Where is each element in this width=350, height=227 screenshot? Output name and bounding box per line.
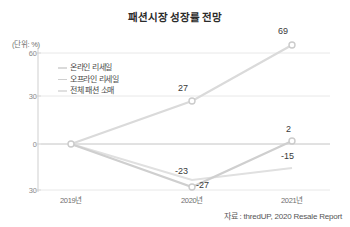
legend-label-overall-fashion-retail: 전체 패션 소매 — [70, 85, 114, 97]
data-label-offline-2020: -27 — [196, 180, 209, 190]
legend-swatch-icon-offline-resale — [58, 79, 67, 81]
data-label-online-2020: 27 — [178, 83, 188, 93]
marker-offline-2021 — [289, 138, 295, 144]
data-label-online-2021: 69 — [278, 26, 288, 36]
plot-area — [0, 0, 350, 227]
data-label-offline-2021: 2 — [286, 124, 291, 134]
data-label-overall-2021: -15 — [281, 151, 294, 161]
legend-item-overall-fashion-retail: 전체 패션 소매 — [58, 85, 119, 97]
legend-label-offline-resale: 오프라인 리세일 — [70, 74, 119, 86]
legend-swatch-icon-online-resale — [58, 67, 67, 69]
chart-container: 패션시장 성장률 전망 (단위: %) 60 30 0 30 2019년 202… — [0, 0, 350, 227]
data-label-overall-2020: -23 — [175, 166, 188, 176]
marker-online-2021 — [289, 42, 295, 48]
marker-online-2020 — [189, 98, 195, 104]
marker-offline-2020 — [189, 184, 195, 190]
legend-swatch-icon-overall-fashion-retail — [58, 90, 67, 92]
source-note: 자료 : thredUP, 2020 Resale Report — [224, 210, 342, 221]
chart-legend: 온라인 리세일 오프라인 리세일 전체 패션 소매 — [58, 62, 119, 97]
legend-label-online-resale: 온라인 리세일 — [70, 62, 112, 74]
series-line-offline-resale — [71, 141, 292, 187]
legend-item-online-resale: 온라인 리세일 — [58, 62, 119, 74]
legend-item-offline-resale: 오프라인 리세일 — [58, 74, 119, 86]
marker-2019-origin — [68, 141, 74, 147]
